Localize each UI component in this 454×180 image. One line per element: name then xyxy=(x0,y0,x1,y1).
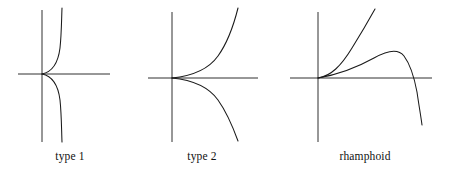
curve-rhamphoid-steep-branch xyxy=(318,9,375,78)
curve-type-2-lower-branch xyxy=(172,78,238,141)
panel-caption-type-2: type 2 xyxy=(132,149,272,163)
curve-type-1-lower-branch xyxy=(42,74,62,142)
curve-type-1-upper-branch xyxy=(42,8,62,74)
cusp-types-figure: type 1 type 2 rhamphoid xyxy=(0,0,454,180)
panel-type-1 xyxy=(18,8,110,142)
panel-caption-type-1: type 1 xyxy=(0,149,140,163)
panel-rhamphoid xyxy=(290,9,432,142)
panel-type-2 xyxy=(148,8,258,142)
panel-caption-rhamphoid: rhamphoid xyxy=(290,149,440,163)
curve-type-2-upper-branch xyxy=(172,8,238,78)
curve-rhamphoid-arching-branch xyxy=(318,51,422,125)
